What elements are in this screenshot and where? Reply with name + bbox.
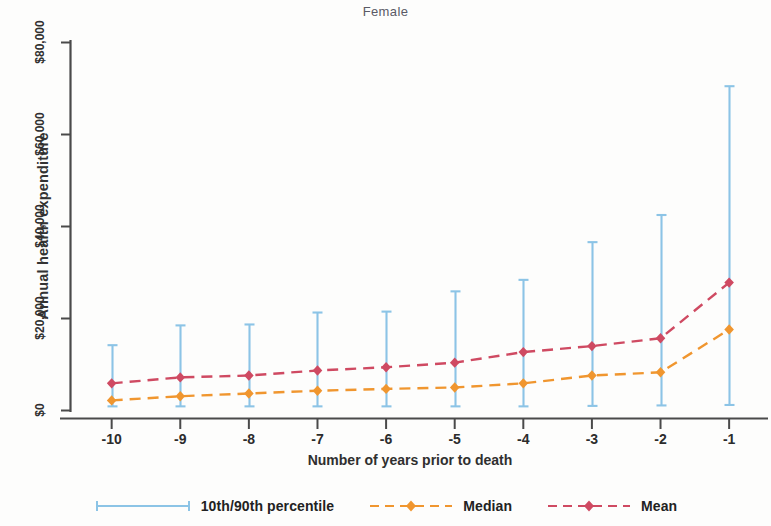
x-tick-label: -3 xyxy=(572,431,612,447)
x-tick-label: -10 xyxy=(92,431,132,447)
median-data-point xyxy=(656,367,666,377)
x-tick-label: -5 xyxy=(435,431,475,447)
mean-data-point xyxy=(244,370,254,380)
y-tick-label: $0 xyxy=(33,375,47,445)
chart-figure: Female Annual health expenditure Number … xyxy=(0,0,771,526)
x-tick-label: -9 xyxy=(160,431,200,447)
median-data-point xyxy=(587,370,597,380)
legend-label-percentile: 10th/90th percentile xyxy=(201,498,335,514)
median-data-point xyxy=(313,386,323,396)
x-tick-label: -4 xyxy=(503,431,543,447)
mean-data-point xyxy=(656,333,666,343)
chart-legend: 10th/90th percentile Median Mean xyxy=(0,488,771,524)
mean-data-point xyxy=(519,347,529,357)
legend-item-percentile[interactable]: 10th/90th percentile xyxy=(94,498,335,514)
median-data-point xyxy=(381,384,391,394)
median-data-point xyxy=(107,395,117,405)
legend-label-mean: Mean xyxy=(641,498,677,514)
legend-label-median: Median xyxy=(463,498,512,514)
mean-data-point xyxy=(587,341,597,351)
y-tick-label: $20,000 xyxy=(33,283,47,353)
median-data-point xyxy=(724,324,734,334)
median-data-point xyxy=(244,388,254,398)
median-data-point xyxy=(450,382,460,392)
dashed-diamond-icon-median xyxy=(368,499,454,513)
dashed-diamond-icon-mean xyxy=(546,499,632,513)
mean-data-point xyxy=(381,362,391,372)
x-tick-label: -6 xyxy=(366,431,406,447)
median-data-point xyxy=(519,378,529,388)
y-tick-label: $60,000 xyxy=(33,99,47,169)
mean-data-point xyxy=(107,378,117,388)
series-10th-90th-percentile xyxy=(108,86,735,406)
series-mean xyxy=(107,277,734,388)
capped-line-icon xyxy=(94,499,192,513)
x-tick-label: -7 xyxy=(297,431,337,447)
mean-line xyxy=(112,283,729,384)
y-tick-label: $80,000 xyxy=(33,7,47,77)
x-tick-label: -1 xyxy=(709,431,749,447)
x-tick-label: -2 xyxy=(641,431,681,447)
y-axis-ticks xyxy=(61,43,71,411)
plot-area xyxy=(0,0,771,526)
x-tick-label: -8 xyxy=(229,431,269,447)
x-axis-ticks xyxy=(112,419,729,430)
mean-data-point xyxy=(175,372,185,382)
y-tick-label: $40,000 xyxy=(33,191,47,261)
mean-data-point xyxy=(313,365,323,375)
mean-data-point xyxy=(450,357,460,367)
legend-item-mean[interactable]: Mean xyxy=(546,498,677,514)
median-data-point xyxy=(175,391,185,401)
legend-item-median[interactable]: Median xyxy=(368,498,512,514)
